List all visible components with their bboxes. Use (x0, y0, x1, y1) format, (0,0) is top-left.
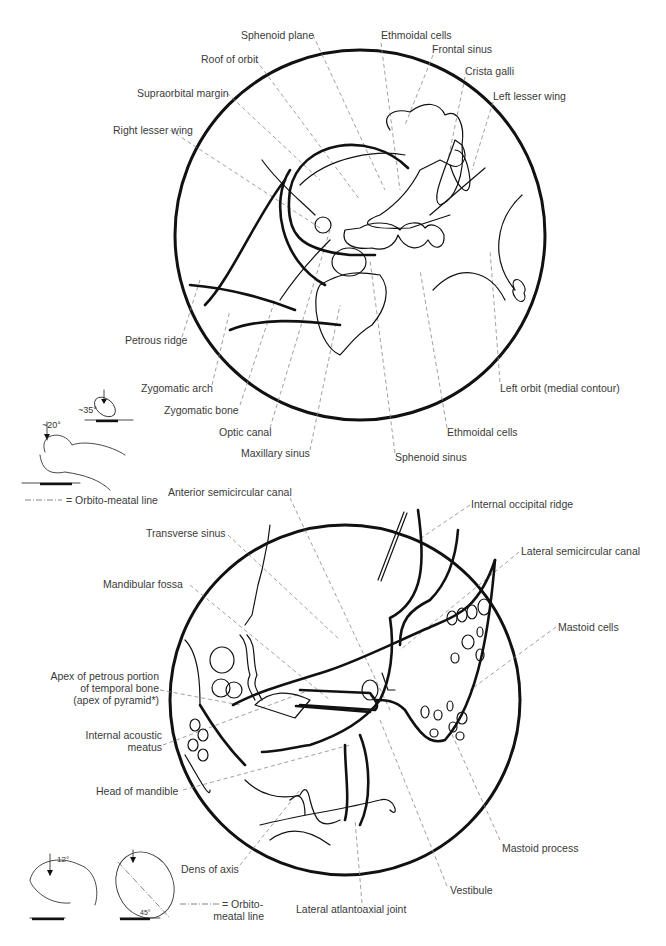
label-apex-petrous: Apex of petrous portion of temporal bone… (43, 670, 159, 706)
angle-label: 45° (140, 909, 151, 916)
bottom-radiograph: 12° 45° (30, 498, 556, 928)
label-roof-of-orbit: Roof of orbit (201, 53, 258, 65)
label-lateral-semicircular-canal: Lateral semicircular canal (521, 545, 640, 557)
label-crista-galli: Crista galli (465, 65, 514, 77)
angle-label: ~35° (78, 405, 97, 415)
label-mandibular-fossa: Mandibular fossa (103, 578, 183, 590)
anatomy-diagram: .ring { fill: none; stroke: #111; stroke… (0, 0, 666, 946)
label-internal-acoustic-meatus: Internal acoustic meatus (70, 729, 162, 753)
bottom-leader-lines (160, 498, 556, 903)
label-left-lesser-wing: Left lesser wing (493, 90, 566, 102)
label-optic-canal: Optic canal (219, 426, 272, 438)
label-petrous-ridge: Petrous ridge (125, 334, 187, 346)
top-positioning-sketch: ~35° ~20° (22, 390, 133, 500)
label-left-orbit-medial: Left orbit (medial contour) (500, 382, 620, 394)
legend-orbito-meatal-bottom-1: = Orbito- (222, 898, 268, 910)
label-right-lesser-wing: Right lesser wing (113, 124, 193, 136)
label-sphenoid-plane: Sphenoid plane (241, 29, 314, 41)
angle-label: ~20° (42, 420, 61, 430)
label-mastoid-cells: Mastoid cells (558, 621, 619, 633)
label-ethmoidal-cells-bottom: Ethmoidal cells (447, 426, 518, 438)
label-vestibule: Vestibule (450, 884, 493, 896)
label-maxillary-sinus: Maxillary sinus (241, 447, 310, 459)
legend-orbito-meatal-bottom-2: meatal line (200, 910, 264, 922)
label-dens-of-axis: Dens of axis (181, 863, 239, 875)
mastoid-cells-group (421, 599, 490, 740)
label-sphenoid-sinus: Sphenoid sinus (395, 451, 467, 463)
label-frontal-sinus: Frontal sinus (432, 43, 492, 55)
label-lateral-atlantoaxial-joint: Lateral atlantoaxial joint (296, 903, 406, 915)
bottom-positioning-sketch: 12° 45° (30, 842, 220, 927)
label-zygomatic-arch: Zygomatic arch (141, 382, 213, 394)
top-field-circle (175, 50, 545, 420)
legend-orbito-meatal-top: = Orbito-meatal line (66, 494, 158, 506)
label-internal-occipital-ridge: Internal occipital ridge (471, 498, 573, 510)
label-mastoid-process: Mastoid process (502, 842, 578, 854)
label-anterior-semicircular-canal: Anterior semicircular canal (168, 486, 292, 498)
label-transverse-sinus: Transverse sinus (146, 527, 226, 539)
top-anatomy-outlines (190, 104, 525, 355)
label-zygomatic-bone: Zygomatic bone (164, 404, 239, 416)
label-ethmoidal-cells-top: Ethmoidal cells (381, 29, 452, 41)
label-supraorbital-margin: Supraorbital margin (137, 87, 229, 99)
label-head-of-mandible: Head of mandible (96, 785, 178, 797)
